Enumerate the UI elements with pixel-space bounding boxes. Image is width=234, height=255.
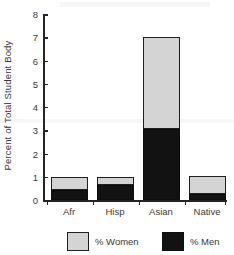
y-tick-mark [43,154,48,155]
x-tick-mark [225,200,226,205]
bar-segment-men [97,185,134,200]
y-axis-label-text: Percent of Total Student Body [3,40,14,170]
y-tick-label: 7 [33,32,38,43]
y-tick-label: 4 [33,102,38,113]
chart-legend: % Women % Men [43,231,234,253]
y-tick-mark [43,14,48,15]
x-category-label-hisp: Hisp [105,206,124,217]
y-axis-label: Percent of Total Student Body [0,0,16,210]
bar-segment-men [51,190,88,200]
bar-asian [143,37,180,200]
legend-swatch-women-icon [67,232,89,251]
chart-figure: Percent of Total Student Body 012345678 … [0,0,234,255]
y-tick-label: 5 [33,78,38,89]
bar-native [189,176,226,200]
bar-segment-women [51,177,88,190]
x-tick-mark [47,200,48,205]
bar-segment-women [97,177,134,185]
y-tick-mark [43,177,48,178]
y-tick-label: 6 [33,55,38,66]
x-category-label-native: Native [194,206,221,217]
legend-item-men: % Men [162,231,220,251]
legend-label-women: % Women [95,236,139,247]
bar-segment-women [189,176,226,194]
bar-segment-women [143,37,180,129]
bar-afr [51,177,88,200]
y-tick-label: 2 [33,148,38,159]
y-tick-mark [43,107,48,108]
plot-area: 012345678 [43,14,227,200]
legend-label-men: % Men [190,236,220,247]
y-tick-label: 1 [33,171,38,182]
y-tick-label: 3 [33,125,38,136]
bar-segment-men [189,194,226,200]
x-tick-mark [185,200,186,205]
bar-hisp [97,177,134,200]
y-tick-mark [43,130,48,131]
x-tick-mark [93,200,94,205]
y-tick-mark [43,37,48,38]
bar-segment-men [143,129,180,200]
y-tick-mark [43,84,48,85]
y-tick-label: 8 [33,9,38,20]
legend-item-women: % Women [67,231,139,251]
legend-swatch-men-icon [162,232,184,251]
x-axis-line [43,200,227,202]
x-tick-mark [139,200,140,205]
x-category-label-afr: Afr [63,206,75,217]
scan-artifact [60,2,210,7]
x-category-label-asian: Asian [149,206,173,217]
y-tick-label: 0 [33,195,38,206]
y-tick-mark [43,61,48,62]
